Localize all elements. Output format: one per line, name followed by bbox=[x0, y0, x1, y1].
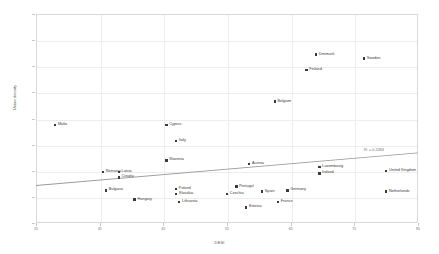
gridline-vertical bbox=[355, 15, 356, 222]
x-tick-label: 65 bbox=[279, 228, 303, 232]
y-tick-mark bbox=[32, 66, 35, 67]
point-marker-icon bbox=[277, 201, 279, 203]
x-tick-label: 25 bbox=[24, 228, 48, 232]
point-marker-icon bbox=[165, 159, 167, 161]
x-tick-label: 85 bbox=[406, 228, 430, 232]
gridline-horizontal bbox=[37, 41, 417, 42]
data-point[interactable]: United Kingdom bbox=[385, 162, 416, 178]
data-point[interactable]: Italy bbox=[175, 132, 186, 148]
x-tick-label: 75 bbox=[342, 228, 366, 232]
x-tick-mark bbox=[163, 223, 164, 226]
x-tick-mark bbox=[36, 223, 37, 226]
data-point[interactable]: Lithuania bbox=[178, 193, 197, 209]
gridline-horizontal bbox=[37, 67, 417, 68]
x-tick-label: 45 bbox=[151, 228, 175, 232]
point-marker-icon bbox=[318, 172, 320, 174]
y-axis-title: Union density bbox=[12, 68, 17, 128]
point-label: Netherlands bbox=[389, 190, 409, 194]
point-marker-icon bbox=[102, 171, 104, 173]
point-marker-icon bbox=[226, 193, 228, 195]
point-marker-icon bbox=[175, 193, 177, 195]
point-label: Czechia bbox=[230, 192, 244, 196]
scatter-chart: Union density DESI 010203040506070802535… bbox=[0, 0, 439, 254]
point-label: Sweden bbox=[367, 57, 381, 61]
data-point[interactable]: Spain bbox=[261, 183, 275, 199]
y-tick-mark bbox=[32, 223, 35, 224]
point-label: Denmark bbox=[319, 53, 334, 57]
gridline-horizontal bbox=[37, 172, 417, 173]
point-label: Malta bbox=[58, 123, 67, 127]
point-label: United Kingdom bbox=[389, 169, 416, 173]
r-squared-annotation: R² = 0.2284 bbox=[364, 148, 384, 152]
point-marker-icon bbox=[105, 189, 107, 191]
x-tick-label: 35 bbox=[88, 228, 112, 232]
point-label: Austria bbox=[252, 162, 264, 166]
data-point[interactable]: Sweden bbox=[363, 50, 381, 66]
point-marker-icon bbox=[286, 189, 288, 191]
point-label: Cyprus bbox=[169, 123, 181, 127]
point-marker-icon bbox=[178, 201, 180, 203]
point-label: Finland bbox=[309, 68, 321, 72]
data-point[interactable]: France bbox=[277, 193, 293, 209]
point-marker-icon bbox=[274, 100, 276, 102]
gridline-vertical bbox=[101, 15, 102, 222]
point-marker-icon bbox=[363, 57, 365, 59]
point-marker-icon bbox=[54, 124, 56, 126]
data-point[interactable]: Cyprus bbox=[165, 116, 181, 132]
y-tick-mark bbox=[32, 40, 35, 41]
point-label: Lithuania bbox=[182, 200, 197, 204]
point-label: Bulgaria bbox=[109, 188, 123, 192]
data-point[interactable]: Slovenia bbox=[165, 152, 184, 168]
point-marker-icon bbox=[118, 176, 120, 178]
point-marker-icon bbox=[248, 163, 250, 165]
point-marker-icon bbox=[165, 124, 167, 126]
data-point[interactable]: Hungary bbox=[133, 191, 151, 207]
point-marker-icon bbox=[315, 53, 317, 55]
gridline-horizontal bbox=[37, 146, 417, 147]
point-label: Hungary bbox=[137, 198, 151, 202]
x-tick-label: 55 bbox=[215, 228, 239, 232]
point-marker-icon bbox=[245, 206, 247, 208]
data-point[interactable]: Austria bbox=[248, 155, 264, 171]
y-tick-mark bbox=[32, 92, 35, 93]
y-tick-mark bbox=[32, 197, 35, 198]
point-label: Croatia bbox=[122, 175, 134, 179]
data-point[interactable]: Denmark bbox=[315, 46, 334, 62]
data-point[interactable]: Malta bbox=[54, 116, 67, 132]
data-point[interactable]: Estonia bbox=[245, 199, 262, 215]
y-tick-mark bbox=[32, 145, 35, 146]
point-label: Ireland bbox=[322, 171, 334, 175]
x-tick-mark bbox=[291, 223, 292, 226]
gridline-horizontal bbox=[37, 120, 417, 121]
point-marker-icon bbox=[133, 198, 135, 200]
x-tick-mark bbox=[100, 223, 101, 226]
x-tick-mark bbox=[354, 223, 355, 226]
point-label: France bbox=[281, 200, 293, 204]
point-marker-icon bbox=[385, 190, 387, 192]
x-tick-mark bbox=[227, 223, 228, 226]
point-label: Estonia bbox=[249, 205, 262, 209]
y-tick-mark bbox=[32, 171, 35, 172]
data-point[interactable]: Czechia bbox=[226, 186, 244, 202]
data-point[interactable]: Finland bbox=[305, 61, 321, 77]
data-point[interactable]: Ireland bbox=[318, 165, 334, 181]
data-point[interactable]: Belgium bbox=[274, 93, 292, 109]
point-marker-icon bbox=[175, 140, 177, 142]
point-label: Spain bbox=[265, 190, 275, 194]
point-label: Germany bbox=[290, 188, 306, 192]
gridline-horizontal bbox=[37, 93, 417, 94]
point-marker-icon bbox=[261, 190, 263, 192]
x-axis-title: DESI bbox=[0, 240, 439, 245]
point-marker-icon bbox=[305, 69, 307, 71]
point-marker-icon bbox=[385, 170, 387, 172]
data-point[interactable]: Netherlands bbox=[385, 183, 409, 199]
point-label: Italy bbox=[179, 139, 186, 143]
data-point[interactable]: Bulgaria bbox=[105, 182, 123, 198]
y-tick-mark bbox=[32, 14, 35, 15]
y-tick-mark bbox=[32, 119, 35, 120]
point-label: Slovenia bbox=[169, 158, 184, 162]
point-label: Belgium bbox=[278, 100, 292, 104]
x-tick-mark bbox=[418, 223, 419, 226]
